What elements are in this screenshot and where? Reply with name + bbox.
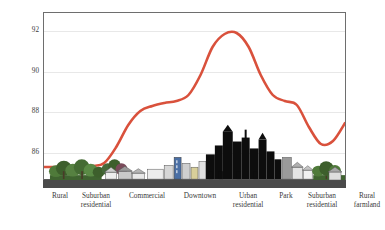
park-trees [312,161,345,180]
commercial-buildings [147,157,206,179]
y-tick-90: 90 [17,67,39,75]
ground-strip [44,179,345,187]
x-label-suburban-residential-2: Suburban residential [295,191,349,210]
y-tick-86: 86 [17,148,39,156]
y-tick-88: 88 [17,107,39,115]
downtown-skyline [206,125,281,179]
plot-area [43,12,346,188]
x-label-downtown: Downtown [172,191,228,200]
x-label-commercial: Commercial [119,191,175,200]
urban-residential [282,157,313,179]
y-axis-tick-labels: 92 90 88 86 [14,12,39,188]
suburban-residential-left [102,159,146,179]
rural-trees [49,159,105,180]
x-axis-category-labels: Rural Suburban residential Commercial Do… [43,191,346,225]
y-tick-92: 92 [17,26,39,34]
x-label-rural-farmland: Rural farmland [343,191,385,210]
x-label-suburban-residential-1: Suburban residential [69,191,123,210]
x-label-urban-residential: Urban residential [224,191,272,210]
landscape-illustration [44,13,345,187]
